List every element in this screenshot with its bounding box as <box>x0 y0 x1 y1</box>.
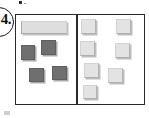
left-panel <box>16 15 76 104</box>
scan-speck-icon <box>4 111 10 115</box>
dark-square-tile <box>29 68 44 82</box>
light-square-tile <box>84 63 99 78</box>
dark-square-tile <box>52 66 67 80</box>
light-square-tile <box>81 19 96 34</box>
light-square-tile <box>115 43 130 58</box>
scan-speck-icon <box>24 3 26 4</box>
dark-square-tile <box>41 40 56 55</box>
right-panel <box>78 15 144 104</box>
diagram-frame <box>15 14 145 105</box>
light-square-tile <box>83 85 97 99</box>
scan-speck-icon <box>19 1 22 4</box>
figure-number-circle: 4. <box>0 7 14 37</box>
figure-number-label: 4. <box>1 12 11 27</box>
light-square-tile <box>108 68 123 83</box>
figure-page: 4. <box>0 0 149 118</box>
wide-bar-tile <box>21 21 67 34</box>
dark-square-tile <box>21 45 35 60</box>
light-square-tile <box>116 19 131 34</box>
light-square-tile <box>80 41 95 56</box>
